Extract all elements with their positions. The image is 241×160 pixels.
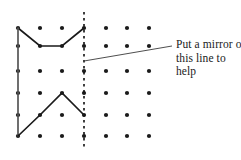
grid-dot-r4-c6 <box>125 91 129 95</box>
grid-dot-r5-c6 <box>125 113 129 117</box>
grid-dot-r5-c5 <box>104 113 108 117</box>
grid-dot-r6-c3 <box>60 134 64 138</box>
grid-dot-r6-c5 <box>104 134 108 138</box>
annotation-line-2: this line to <box>176 52 240 66</box>
grid-dot-r3-c2 <box>38 69 42 73</box>
grid-dot-r4-c2 <box>38 91 42 95</box>
grid-dot-r4-c5 <box>104 91 108 95</box>
grid-dot-r3-c6 <box>125 69 129 73</box>
leader-line-layer <box>84 46 172 61</box>
grid-dot-r2-c7 <box>147 44 151 48</box>
callout-leader-line <box>84 46 172 61</box>
grid-dot-r2-c5 <box>104 44 108 48</box>
grid-dot-r1-c6 <box>125 26 129 30</box>
grid-dot-r4-c7 <box>147 91 151 95</box>
grid-dot-r1-c3 <box>60 26 64 30</box>
upper-zigzag <box>18 28 84 46</box>
figure-page: Put a mirror on this line to help <box>0 0 241 160</box>
grid-dot-r6-c6 <box>125 134 129 138</box>
grid-dot-r2-c4 <box>82 44 86 48</box>
grid-dot-r1-c7 <box>147 26 151 30</box>
dot-grid-figure <box>0 0 241 160</box>
grid-dot-r2-c6 <box>125 44 129 48</box>
grid-dot-r6-c4 <box>82 134 86 138</box>
grid-dot-r6-c7 <box>147 134 151 138</box>
grid-dot-r5-c7 <box>147 113 151 117</box>
annotation-line-3: help <box>176 65 240 79</box>
grid-dot-r1-c5 <box>104 26 108 30</box>
grid-dot-r6-c2 <box>38 134 42 138</box>
grid-dot-r1-c2 <box>38 26 42 30</box>
grid-dot-r5-c3 <box>60 113 64 117</box>
annotation-line-1: Put a mirror on <box>176 38 240 52</box>
grid-dot-r3-c7 <box>147 69 151 73</box>
lower-zigzag <box>18 93 84 136</box>
grid-dot-r3-c3 <box>60 69 64 73</box>
shape-outline-layer <box>18 28 84 136</box>
annotation-text-block: Put a mirror on this line to help <box>176 38 240 79</box>
grid-dot-r3-c5 <box>104 69 108 73</box>
